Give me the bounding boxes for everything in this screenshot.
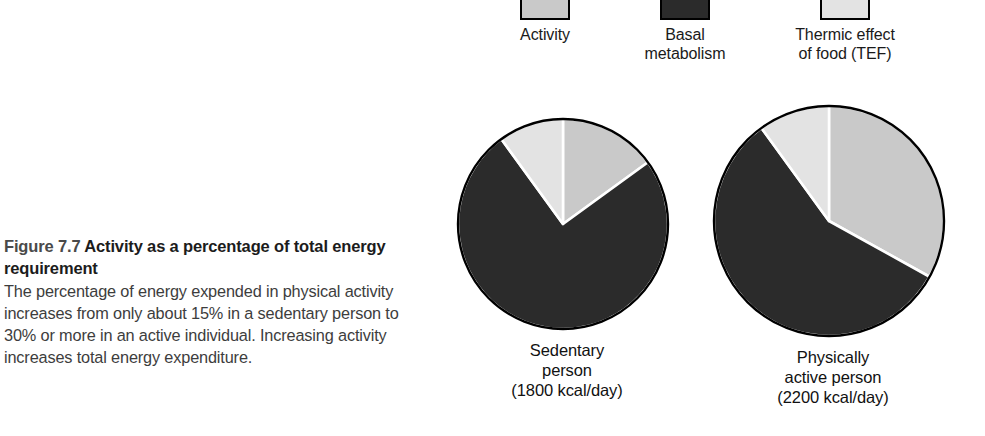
legend-swatch-thermic-effect-of-food [820, 0, 870, 20]
figure-number: Figure 7.7 [4, 237, 80, 255]
legend-label-thermic-effect-of-food: Thermic effect of food (TEF) [760, 26, 930, 63]
legend-label-activity: Activity [480, 26, 610, 45]
figure-caption-heading: Figure 7.7 Activity as a percentage of t… [4, 236, 404, 280]
legend-swatch-activity [520, 0, 570, 20]
pie-chart-physically-active: Physically active person (2200 kcal/day) [708, 100, 958, 407]
legend-label-basal-metabolism: Basal metabolism [620, 26, 750, 63]
legend-item-basal-metabolism: Basal metabolism [620, 0, 750, 63]
legend-item-activity: Activity [480, 0, 610, 45]
pie-caption-physically-active: Physically active person (2200 kcal/day) [708, 348, 958, 407]
pie-svg-sedentary [452, 113, 674, 335]
figure-caption-body: The percentage of energy expended in phy… [4, 281, 404, 369]
pie-svg-physically-active [708, 100, 950, 342]
pie-caption-sedentary: Sedentary person (1800 kcal/day) [452, 341, 682, 400]
legend-swatch-basal-metabolism [660, 0, 710, 20]
figure-caption-block: Figure 7.7 Activity as a percentage of t… [4, 236, 404, 369]
pie-chart-sedentary: Sedentary person (1800 kcal/day) [452, 113, 682, 400]
legend: Activity Basal metabolism Thermic effect… [470, 0, 985, 72]
legend-item-thermic-effect-of-food: Thermic effect of food (TEF) [760, 0, 930, 63]
